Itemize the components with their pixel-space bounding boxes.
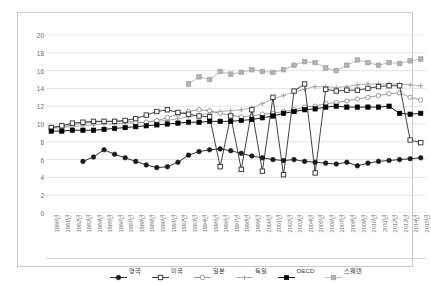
x-tick-label: 2004년 [307,215,315,232]
x-tick-label: 1991년 [170,215,178,232]
legend-marker-icon [236,267,253,274]
y-tick-label: 6 [40,156,44,163]
x-tick-label: 2013년 [402,215,410,232]
legend-item-OECD[interactable]: OECD [278,267,315,274]
legend-marker-icon [110,267,127,274]
x-tick-label: 1984년 [96,215,104,232]
x-tick-label: 1992년 [180,215,188,232]
x-tick-label: 1996년 [222,215,230,232]
x-tick-label: 2008년 [349,215,357,232]
y-tick-label: 18 [37,49,44,56]
chart-frame: 02468101214161820 1980년1981년1982년1983년19… [17,12,413,267]
legend-label: 독일 [255,266,267,275]
y-tick-label: 0 [40,210,44,217]
x-axis: 1980년1981년1982년1983년1984년1985년1986년1987년… [46,215,426,259]
x-tick-label: 1980년 [53,215,61,232]
series-영국 [81,147,423,170]
y-tick-label: 20 [37,32,44,39]
x-tick-label: 1993년 [191,215,199,232]
legend-label: 미국 [171,266,183,275]
plot-svg [46,35,426,213]
x-tick-label: 2003년 [296,215,304,232]
x-tick-label: 2005년 [317,215,325,232]
x-tick-label: 1999년 [254,215,262,232]
y-tick-label: 2 [40,192,44,199]
x-tick-label: 1989년 [148,215,156,232]
x-tick-label: 1998년 [243,215,251,232]
series-OECD [49,104,423,133]
x-tick-label: 2015년 [423,215,431,232]
legend-label: 스웨덴 [344,266,362,275]
legend-item-스웨덴[interactable]: 스웨덴 [325,266,362,275]
legend-label: 영국 [129,266,141,275]
y-tick-label: 10 [37,121,44,128]
legend-item-영국[interactable]: 영국 [110,266,141,275]
x-tick-label: 1982년 [75,215,83,232]
x-tick-label: 1985년 [106,215,114,232]
plot-area [46,35,426,213]
legend-divider [46,258,426,259]
x-tick-label: 2014년 [412,215,420,232]
legend-item-미국[interactable]: 미국 [152,266,183,275]
x-tick-label: 2000년 [265,215,273,232]
x-tick-label: 1997년 [233,215,241,232]
legend-marker-icon [194,267,211,274]
x-tick-label: 1981년 [64,215,72,232]
x-tick-label: 2006년 [328,215,336,232]
x-tick-label: 1988년 [138,215,146,232]
x-tick-label: 2012년 [391,215,399,232]
x-tick-label: 1994년 [201,215,209,232]
legend-marker-icon [325,267,342,274]
x-tick-label: 2009년 [360,215,368,232]
legend-label: 일본 [213,266,225,275]
x-tick-label: 2001년 [275,215,283,232]
chart-legend: 영국미국일본독일OECD스웨덴 [46,263,426,277]
x-tick-label: 1986년 [117,215,125,232]
y-tick-label: 8 [40,138,44,145]
y-axis: 02468101214161820 [35,35,44,213]
x-tick-label: 2010년 [370,215,378,232]
legend-item-일본[interactable]: 일본 [194,266,225,275]
x-tick-label: 1987년 [127,215,135,232]
x-tick-label: 1995년 [212,215,220,232]
y-tick-label: 12 [37,103,44,110]
legend-marker-icon [278,267,295,274]
x-tick-label: 1990년 [159,215,167,232]
y-tick-label: 4 [40,174,44,181]
x-tick-label: 2002년 [286,215,294,232]
legend-marker-icon [152,267,169,274]
x-tick-label: 2011년 [381,215,389,232]
y-tick-label: 16 [37,67,44,74]
legend-item-독일[interactable]: 독일 [236,266,267,275]
y-tick-label: 14 [37,85,44,92]
x-tick-label: 2007년 [338,215,346,232]
legend-label: OECD [297,267,315,274]
x-tick-label: 1983년 [85,215,93,232]
